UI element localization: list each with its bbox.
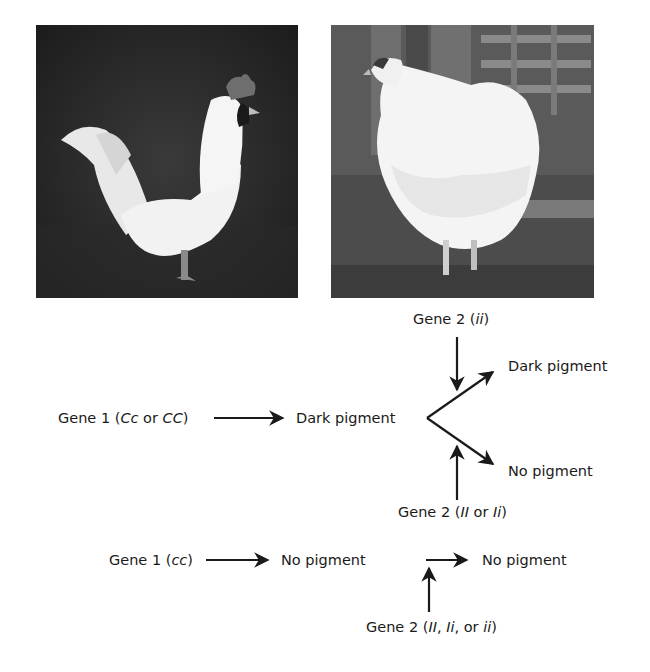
gene2-dominant-label: Gene 2 (II or Ii) <box>398 503 507 521</box>
arrow-branch-to-dark <box>427 372 493 418</box>
gene1-prefix: Gene 1 ( <box>58 410 120 426</box>
gene1-suffix: ) <box>183 410 189 426</box>
gene2-any-label: Gene 2 (II, Ii, or ii) <box>366 618 497 636</box>
gene2-or: or <box>469 504 493 520</box>
gene2-prefix: Gene 2 ( <box>366 619 428 635</box>
white-hen-photo <box>331 25 594 298</box>
gene2-suffix: ) <box>501 504 507 520</box>
separator: , or <box>454 619 483 635</box>
genotype-cc: cc <box>171 552 187 568</box>
genotype-II: II <box>428 619 437 635</box>
arrow-branch-to-none <box>427 418 493 464</box>
gene2-suffix: ) <box>483 311 489 327</box>
genotype-Cc: Cc <box>120 410 138 426</box>
separator: , <box>437 619 446 635</box>
outcome-dark-pigment: Dark pigment <box>508 357 607 375</box>
gene1-prefix: Gene 1 ( <box>109 552 171 568</box>
gene2-prefix: Gene 2 ( <box>413 311 475 327</box>
genotype-ii: ii <box>483 619 491 635</box>
gene2-prefix: Gene 2 ( <box>398 504 460 520</box>
white-rooster-photo <box>36 25 298 298</box>
dark-pigment-intermediate: Dark pigment <box>296 409 395 427</box>
gene2-recessive-label: Gene 2 (ii) <box>413 310 489 328</box>
gene1-suffix: ) <box>187 552 193 568</box>
genotype-CC: CC <box>163 410 183 426</box>
genotype-II: II <box>460 504 469 520</box>
gene1-dominant-label: Gene 1 (Cc or CC) <box>58 409 188 427</box>
gene2-suffix: ) <box>491 619 497 635</box>
outcome-no-pigment: No pigment <box>508 462 593 480</box>
outcome-no-pigment-row2: No pigment <box>482 551 567 569</box>
gene1-or: or <box>138 410 162 426</box>
no-pigment-intermediate: No pigment <box>281 551 366 569</box>
gene1-recessive-label: Gene 1 (cc) <box>109 551 193 569</box>
